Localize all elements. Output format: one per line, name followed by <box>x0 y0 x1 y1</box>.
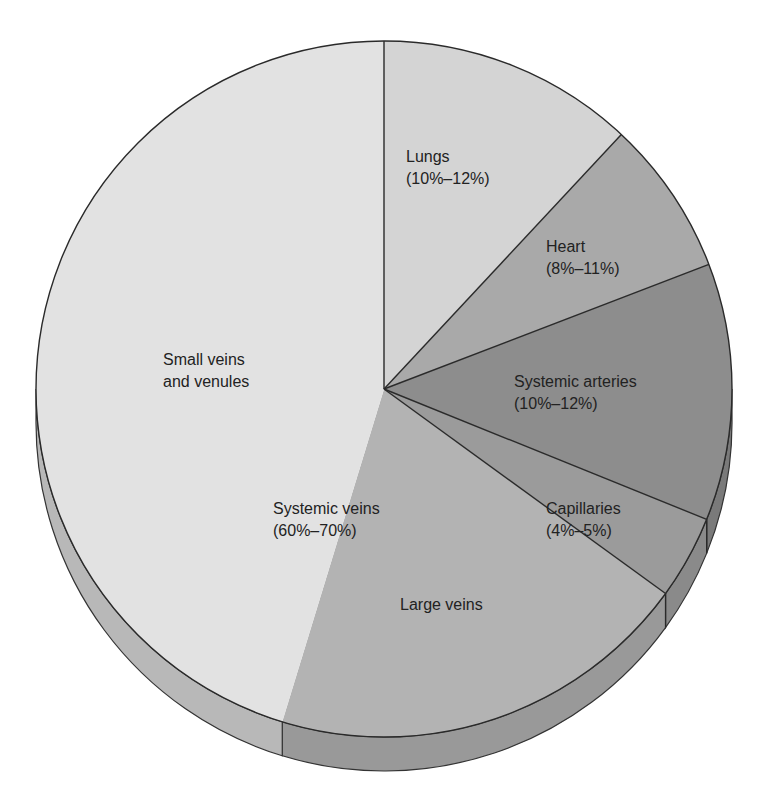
pie-chart-graphic <box>0 0 768 802</box>
label-capillaries: Capillaries (4%–5%) <box>546 498 621 542</box>
label-lungs-range: (10%–12%) <box>406 168 490 190</box>
label-small-veins-line2: and venules <box>163 371 249 393</box>
label-arteries-range: (10%–12%) <box>514 393 637 415</box>
label-systemic-veins-name: Systemic veins <box>273 498 380 520</box>
label-arteries-name: Systemic arteries <box>514 371 637 393</box>
label-lungs-name: Lungs <box>406 146 490 168</box>
label-lungs: Lungs (10%–12%) <box>406 146 490 190</box>
label-heart-name: Heart <box>546 236 620 258</box>
label-capillaries-name: Capillaries <box>546 498 621 520</box>
label-systemic-veins: Systemic veins (60%–70%) <box>273 498 380 542</box>
label-heart: Heart (8%–11%) <box>546 236 620 280</box>
label-systemic-arteries: Systemic arteries (10%–12%) <box>514 371 637 415</box>
label-capillaries-range: (4%–5%) <box>546 520 621 542</box>
label-small-veins: Small veins and venules <box>163 349 249 393</box>
blood-volume-pie-chart: Lungs (10%–12%) Heart (8%–11%) Systemic … <box>0 0 768 802</box>
label-systemic-veins-range: (60%–70%) <box>273 520 380 542</box>
label-large-veins-name: Large veins <box>400 594 483 616</box>
label-heart-range: (8%–11%) <box>546 258 620 280</box>
label-large-veins: Large veins <box>400 594 483 616</box>
label-small-veins-line1: Small veins <box>163 349 249 371</box>
